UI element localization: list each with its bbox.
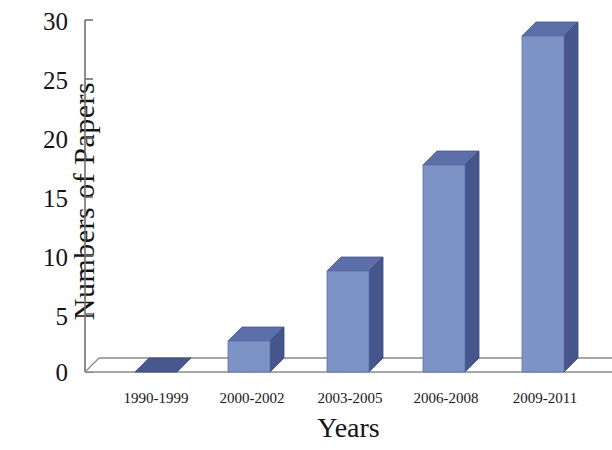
x-tick-label-3: 2003-2005 — [297, 390, 403, 407]
x-tick-label-4: 2006-2008 — [393, 390, 499, 407]
plot-area — [0, 0, 612, 450]
x-tick-label-1: 1990-1999 — [103, 390, 209, 407]
x-tick-label-2: 2000-2002 — [199, 390, 305, 407]
bar-2009-2011 — [522, 22, 578, 372]
bar-2003-2005 — [327, 257, 383, 372]
x-axis-title: Years — [85, 412, 612, 444]
bar-2000-2002 — [228, 327, 284, 372]
bar-2006-2008 — [423, 151, 479, 372]
x-tick-label-5: 2009-2011 — [492, 390, 598, 407]
bar-chart-figure: Numbers of Papers 30 25 20 15 10 5 0 — [0, 0, 612, 450]
y-tick-marks — [85, 20, 93, 372]
plot-svg — [0, 0, 612, 450]
